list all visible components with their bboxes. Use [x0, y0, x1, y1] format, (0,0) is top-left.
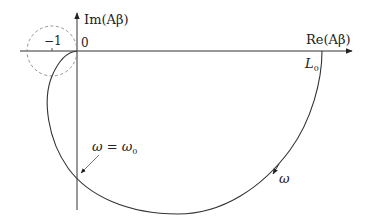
- y-axis-label-text: Im(Aβ): [84, 12, 129, 27]
- nyquist-curve: [47, 51, 322, 214]
- start-point-label-main: L: [305, 56, 314, 71]
- direction-label: ω: [279, 172, 290, 185]
- crossing-frequency-label: ω = ω0: [92, 140, 137, 156]
- start-point-label: L0: [305, 57, 319, 73]
- minus-one-label-text: −1: [44, 34, 62, 48]
- start-point-label-subscript: 0: [314, 64, 319, 73]
- omega0-pointer-arrow: [81, 155, 99, 173]
- crossing-label-subscript: 0: [132, 147, 137, 156]
- x-axis-label: Re(Aβ): [306, 33, 351, 46]
- origin-label: 0: [81, 37, 89, 49]
- origin-label-text: 0: [81, 36, 89, 50]
- nyquist-diagram: Im(Aβ) Re(Aβ) 0 −1 L0 ω = ω0 ω: [0, 0, 366, 224]
- direction-label-text: ω: [279, 171, 290, 186]
- y-axis-label: Im(Aβ): [84, 13, 129, 26]
- crossing-label-main: ω = ω: [92, 139, 132, 154]
- x-axis-label-text: Re(Aβ): [306, 32, 351, 47]
- minus-one-label: −1: [44, 35, 62, 47]
